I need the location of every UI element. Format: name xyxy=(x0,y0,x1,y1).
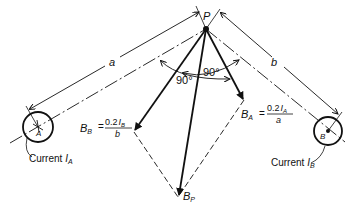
field-diagram: P a b 90° 90° A B Current IA Current IB … xyxy=(0,0,349,206)
vector-bb-arrow xyxy=(135,29,206,130)
conductor-b-label: B xyxy=(320,132,326,141)
svg-text:BB: BB xyxy=(80,122,92,135)
svg-text:b: b xyxy=(115,129,120,139)
vector-bp-arrow xyxy=(179,29,206,195)
dimension-line-b-lower xyxy=(284,67,338,114)
distance-a-label: a xyxy=(109,56,115,68)
vector-ba-arrow xyxy=(206,29,243,99)
angle-left-label: 90° xyxy=(176,74,193,86)
svg-text:=: = xyxy=(98,121,104,132)
svg-text:0.2IB: 0.2IB xyxy=(105,117,125,128)
angle-right-label: 90° xyxy=(203,66,220,78)
svg-text:0.2IA: 0.2IA xyxy=(267,103,287,114)
leader-current-b xyxy=(311,146,325,163)
formula-ba: BA = 0.2IA a xyxy=(241,103,293,125)
formula-bb: BB = 0.2IB b xyxy=(80,117,132,139)
svg-text:a: a xyxy=(276,115,281,125)
current-a-caption: Current IA xyxy=(29,153,73,165)
point-p-label: P xyxy=(203,10,211,22)
parallelogram-side-right xyxy=(178,100,244,197)
dimension-line-a xyxy=(30,66,105,109)
distance-b-label: b xyxy=(271,56,277,68)
dimension-line-a-upper xyxy=(120,12,199,57)
svg-text:=: = xyxy=(259,108,265,119)
extension-line-b xyxy=(328,112,342,131)
conductor-b-dot xyxy=(326,129,330,133)
current-b-caption: Current IB xyxy=(271,157,315,169)
parallelogram-side-left xyxy=(134,132,178,197)
dimension-line-b xyxy=(221,13,272,57)
resultant-bp-label: BP xyxy=(183,190,195,203)
svg-text:BA: BA xyxy=(241,108,253,121)
conductor-a-label: A xyxy=(35,129,41,138)
